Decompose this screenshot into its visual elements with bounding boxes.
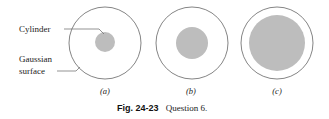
figure-canvas: (a) (b) (c) Cylinder Gaussian surface Fi… — [0, 0, 329, 119]
gaussian-surface-label-line1: Gaussian — [19, 54, 52, 64]
panel-b: (b) — [156, 7, 228, 96]
cylinder-label: Cylinder — [19, 24, 51, 34]
panel-label-a: (a) — [100, 86, 110, 96]
figure-number: Fig. 24-23 — [117, 103, 159, 113]
panel-c: (c) — [241, 7, 313, 96]
cylinder-disc-c — [249, 15, 305, 71]
cylinder-disc-a — [95, 32, 115, 52]
panel-a: (a) — [69, 7, 141, 96]
panel-label-b: (b) — [186, 86, 196, 96]
gaussian-surface-label-line2: surface — [19, 66, 45, 76]
gaussian-leader-line — [57, 67, 80, 71]
panel-label-c: (c) — [272, 86, 282, 96]
figure-caption: Fig. 24-23 Question 6. — [117, 103, 207, 113]
figure-caption-text: Question 6. — [166, 103, 208, 113]
cylinder-disc-b — [176, 27, 208, 59]
